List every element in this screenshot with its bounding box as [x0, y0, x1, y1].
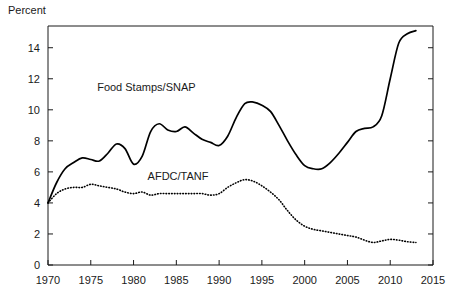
y-tick-label: 10	[28, 104, 40, 116]
x-tick-label: 2005	[335, 274, 359, 286]
series-label-afdc-tanf: AFDC/TANF	[148, 170, 209, 182]
x-tick-label: 1980	[121, 274, 145, 286]
series-label-food-stamps-snap: Food Stamps/SNAP	[97, 81, 195, 93]
x-tick-label: 1990	[207, 274, 231, 286]
x-axis-tick-labels: 1970197519801985199019952000200520102015	[36, 274, 445, 286]
chart-container: Percent 19701975198019851990199520002005…	[0, 0, 471, 301]
series-line-afdc-tanf	[48, 180, 416, 243]
plot-frame	[48, 26, 433, 265]
series-line-food-stamps-snap	[48, 31, 416, 203]
x-tick-label: 2000	[292, 274, 316, 286]
y-tick-label: 6	[34, 166, 40, 178]
y-tick-label: 2	[34, 228, 40, 240]
x-tick-label: 1995	[250, 274, 274, 286]
x-tick-label: 1985	[164, 274, 188, 286]
line-chart-plot: 1970197519801985199019952000200520102015…	[0, 0, 471, 301]
y-axis-tick-labels: 02468101214	[28, 42, 40, 271]
y-tick-label: 14	[28, 42, 40, 54]
x-tick-label: 1975	[79, 274, 103, 286]
x-tick-label: 1970	[36, 274, 60, 286]
y-tick-label: 0	[34, 259, 40, 271]
y-tick-label: 8	[34, 135, 40, 147]
y-tick-label: 12	[28, 73, 40, 85]
x-tick-label: 2010	[378, 274, 402, 286]
y-tick-label: 4	[34, 197, 40, 209]
x-tick-label: 2015	[421, 274, 445, 286]
data-series-group	[48, 31, 416, 243]
